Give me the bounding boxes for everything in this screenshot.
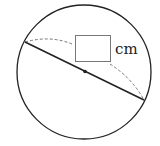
dashed-diameter-arc [25, 39, 72, 44]
circle-diagram: cm [0, 0, 160, 146]
center-point [83, 70, 87, 74]
unit-label: cm [115, 40, 138, 58]
answer-box[interactable] [76, 36, 111, 62]
dashed-diameter-arc-right [110, 64, 144, 100]
